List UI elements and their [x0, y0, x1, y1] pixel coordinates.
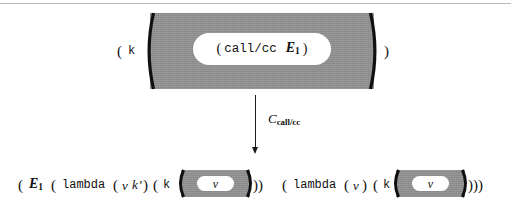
top-open-paren: ( — [117, 44, 122, 59]
lambda2-open-paren: ( — [282, 178, 287, 193]
figure-canvas: ( k ( call/cc E1 ) ) Ccall/cc ( E1 ( lam… — [0, 0, 511, 212]
lambda1-param-v: v — [122, 179, 128, 192]
lambda2-params-open: ( — [344, 178, 349, 193]
lambda1-param-kprime: k’ — [132, 178, 142, 191]
lambda2-body-k: k — [383, 179, 390, 191]
hole-operand-subscript: 1 — [295, 46, 300, 56]
lambda1-body-open: ( — [153, 178, 158, 193]
hole-close-paren: ) — [303, 42, 308, 56]
bottom-hole-2: v — [412, 176, 449, 191]
arrow-label: Ccall/cc — [268, 112, 300, 127]
hole-operand-E: E1 — [286, 41, 300, 57]
lambda1-open-paren: ( — [51, 178, 56, 193]
lambda1-close-parens: )) — [253, 178, 263, 193]
bottom-applied-subscript: 1 — [38, 182, 43, 192]
top-close-paren: ) — [384, 44, 389, 59]
bottom-hole-1: v — [197, 176, 234, 191]
lambda1-keyword: lambda — [62, 179, 105, 191]
bottom-applied-expr: E1 — [29, 177, 43, 193]
lambda2-body-open: ( — [373, 178, 378, 193]
top-hole: ( call/cc E1 ) — [193, 33, 331, 65]
bottom-open-paren: ( — [18, 178, 23, 193]
hole-operand-letter: E — [286, 40, 295, 55]
lambda2-params-close: ) — [362, 178, 367, 193]
top-continuation-var: k — [128, 45, 135, 57]
transform-arrow-head — [252, 147, 258, 154]
bottom-hole-1-value: v — [213, 178, 218, 190]
bottom-applied-letter: E — [29, 176, 38, 191]
bottom-hole-2-value: v — [428, 178, 433, 190]
transform-arrow-shaft — [255, 95, 256, 148]
hole-operator-callcc: call/cc — [224, 43, 277, 56]
arrow-label-subscript: call/cc — [277, 117, 301, 127]
hole-open-paren: ( — [217, 42, 222, 56]
lambda1-body-k: k — [163, 179, 170, 191]
lambda1-params-open: ( — [113, 178, 118, 193]
lambda1-params-close: ) — [143, 178, 148, 193]
lambda2-keyword: lambda — [293, 179, 336, 191]
lambda2-param-v: v — [353, 179, 359, 192]
top-divider-rule — [0, 3, 511, 4]
lambda2-close-parens: ))) — [468, 178, 483, 193]
arrow-label-symbol: C — [268, 111, 277, 126]
